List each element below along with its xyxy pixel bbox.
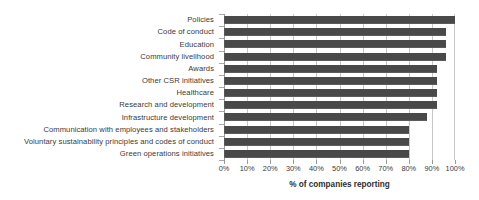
x-axis-tick-label: 40% <box>309 165 324 172</box>
x-axis-tick-label: 30% <box>286 165 301 172</box>
bar[interactable] <box>224 40 446 48</box>
bar-slot <box>224 14 455 26</box>
bar[interactable] <box>224 16 455 24</box>
x-axis-tick-label: 0% <box>219 165 230 172</box>
category-label: Awards <box>0 63 214 75</box>
x-axis-tick-label: 90% <box>424 165 439 172</box>
x-axis-title: % of companies reporting <box>224 181 455 189</box>
bar-slot <box>224 87 455 99</box>
bar[interactable] <box>224 89 437 97</box>
bar[interactable] <box>224 53 446 61</box>
category-label: Green operations initiatives <box>0 148 214 160</box>
x-axis-tick-label: 70% <box>378 165 393 172</box>
plot-area <box>224 14 455 160</box>
bar[interactable] <box>224 113 427 121</box>
bar[interactable] <box>224 77 437 85</box>
category-label: Education <box>0 38 214 50</box>
x-axis-tick-label: 50% <box>332 165 347 172</box>
x-axis-tick-label: 60% <box>355 165 370 172</box>
bar-slot <box>224 99 455 111</box>
category-label: Other CSR initiatives <box>0 75 214 87</box>
bar-slot <box>224 148 455 160</box>
category-label: Community livelihood <box>0 51 214 63</box>
bar[interactable] <box>224 150 409 158</box>
bar[interactable] <box>224 65 437 73</box>
bar-chart: PoliciesCode of conductEducationCommunit… <box>0 0 479 200</box>
bar-slot <box>224 51 455 63</box>
x-axis-tick-label: 10% <box>240 165 255 172</box>
bar[interactable] <box>224 28 446 36</box>
category-label: Voluntary sustainability principles and … <box>0 136 214 148</box>
bar-slot <box>224 111 455 123</box>
bar[interactable] <box>224 101 437 109</box>
x-axis-tick-label: 100% <box>446 165 465 172</box>
chart-plot-wrapper: PoliciesCode of conductEducationCommunit… <box>0 0 479 200</box>
category-label: Policies <box>0 14 214 26</box>
bar-slot <box>224 26 455 38</box>
bar-series <box>224 14 455 160</box>
category-label: Research and development <box>0 99 214 111</box>
category-label: Communication with employees and stakeho… <box>0 124 214 136</box>
bar[interactable] <box>224 126 409 134</box>
x-axis: 0%10%20%30%40%50%60%70%80%90%100% <box>224 160 455 176</box>
bar-slot <box>224 75 455 87</box>
bar[interactable] <box>224 138 409 146</box>
x-axis-tick-label: 20% <box>263 165 278 172</box>
x-axis-tick-label: 80% <box>401 165 416 172</box>
category-label: Healthcare <box>0 87 214 99</box>
bar-slot <box>224 38 455 50</box>
category-label: Code of conduct <box>0 26 214 38</box>
category-label: Infrastructure development <box>0 111 214 123</box>
bar-slot <box>224 63 455 75</box>
category-axis-labels: PoliciesCode of conductEducationCommunit… <box>0 14 214 160</box>
bar-slot <box>224 124 455 136</box>
bar-slot <box>224 136 455 148</box>
